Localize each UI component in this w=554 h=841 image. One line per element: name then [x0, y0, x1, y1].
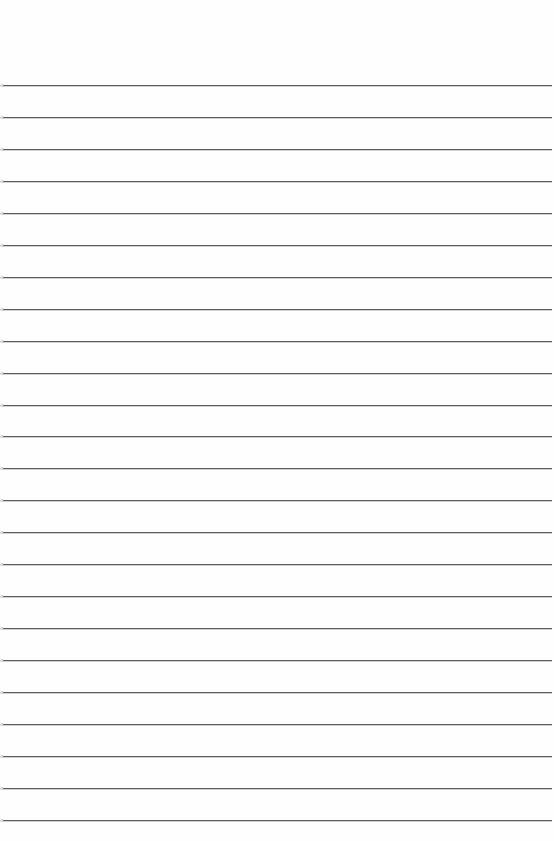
ruled-line [3, 468, 552, 469]
ruled-line [3, 436, 552, 437]
ruled-line [3, 692, 552, 693]
ruled-line [3, 181, 552, 182]
ruled-line [3, 373, 552, 374]
ruled-line [3, 724, 552, 725]
ruled-paper-page [0, 0, 554, 841]
ruled-line [3, 149, 552, 150]
ruled-line [3, 405, 552, 406]
ruled-line [3, 820, 552, 821]
ruled-line [3, 117, 552, 118]
ruled-line [3, 628, 552, 629]
ruled-line [3, 277, 552, 278]
ruled-line [3, 596, 552, 597]
ruled-line [3, 660, 552, 661]
ruled-line [3, 309, 552, 310]
ruled-line [3, 788, 552, 789]
ruled-line [3, 564, 552, 565]
ruled-line [3, 213, 552, 214]
ruled-line [3, 532, 552, 533]
ruled-line [3, 85, 552, 86]
ruled-line [3, 500, 552, 501]
ruled-line [3, 341, 552, 342]
ruled-line [3, 245, 552, 246]
ruled-line [3, 756, 552, 757]
